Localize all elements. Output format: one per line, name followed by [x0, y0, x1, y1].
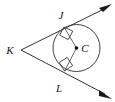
- tangent-ray-kj: [21, 8, 106, 50]
- label-point-j: J: [59, 9, 65, 21]
- tangent-ray-kl: [21, 50, 105, 94]
- geometry-canvas: K J C L: [0, 0, 115, 102]
- radius-segment-cl: [65, 48, 77, 71]
- arrow-head-lower-icon: [99, 90, 112, 99]
- label-point-l: L: [55, 82, 62, 94]
- label-point-k: K: [5, 44, 14, 56]
- label-point-c: C: [81, 42, 89, 54]
- geometry-figure: K J C L: [0, 0, 115, 102]
- center-point-dot-icon: [75, 46, 79, 50]
